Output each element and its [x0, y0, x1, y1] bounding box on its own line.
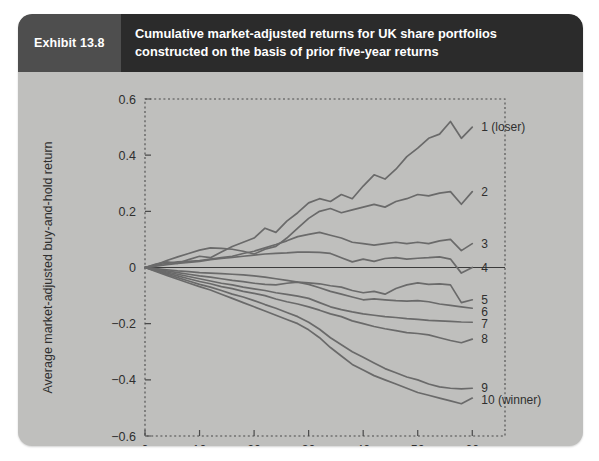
exhibit-number-block: Exhibit 13.8: [18, 14, 121, 72]
series-line-10: [145, 268, 472, 404]
y-tick-label: 0: [129, 261, 136, 275]
y-axis-title: Average market-adjusted buy-and-hold ret…: [41, 141, 55, 393]
y-tick-label: −0.4: [111, 373, 136, 387]
x-tick-label: 20: [247, 443, 261, 446]
y-tick-label: 0.4: [119, 149, 136, 163]
y-tick-label: 0.6: [119, 93, 136, 107]
series-label-2: 2: [481, 185, 488, 199]
x-tick-label: 50: [411, 443, 425, 446]
x-tick-label: 0: [142, 443, 149, 446]
exhibit-title: Cumulative market-adjusted returns for U…: [135, 25, 565, 60]
exhibit-number-label: Exhibit 13.8: [34, 36, 105, 50]
series-label-7: 7: [481, 317, 488, 331]
series-label-10: 10 (winner): [481, 393, 541, 407]
series-line-9: [145, 268, 472, 389]
x-tick-label: 10: [193, 443, 207, 446]
y-tick-label: −0.2: [111, 317, 136, 331]
x-tick-label: 30: [302, 443, 316, 446]
y-tick-label: 0.2: [119, 205, 136, 219]
series-label-8: 8: [481, 332, 488, 346]
chart-area: −0.6−0.4−0.200.20.40.601020304050601 (lo…: [18, 72, 583, 446]
series-line-4: [145, 252, 472, 273]
returns-line-chart: −0.6−0.4−0.200.20.40.601020304050601 (lo…: [18, 72, 583, 446]
series-label-1: 1 (loser): [481, 120, 525, 134]
y-tick-label: −0.6: [111, 430, 136, 444]
series-label-3: 3: [481, 237, 488, 251]
exhibit-title-block: Cumulative market-adjusted returns for U…: [121, 14, 583, 72]
exhibit-card: Exhibit 13.8 Cumulative market-adjusted …: [18, 14, 583, 446]
series-label-4: 4: [481, 261, 488, 275]
x-tick-label: 60: [465, 443, 479, 446]
exhibit-header: Exhibit 13.8 Cumulative market-adjusted …: [18, 14, 583, 72]
x-tick-label: 40: [356, 443, 370, 446]
series-line-6: [145, 268, 472, 309]
series-line-8: [145, 268, 472, 343]
